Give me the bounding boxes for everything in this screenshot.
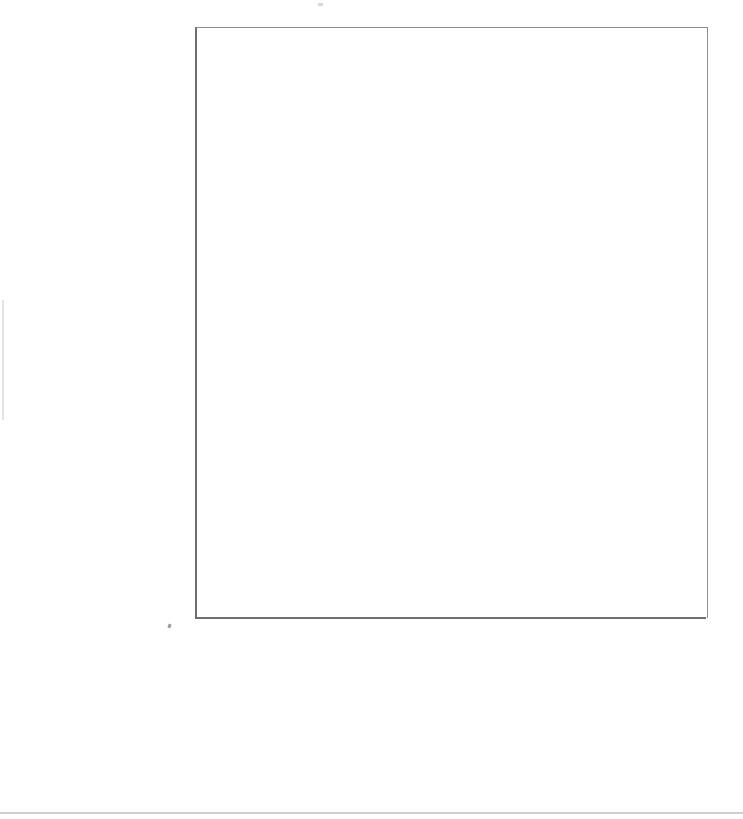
scan-artifact-bottom-edge xyxy=(0,812,743,814)
x-axis-line xyxy=(195,617,706,619)
chart-legend xyxy=(130,718,630,796)
y-axis-ticks xyxy=(0,0,195,819)
bar-chart-figure xyxy=(0,0,743,819)
plot-area xyxy=(195,27,708,618)
scan-artifact-left-edge xyxy=(2,300,4,420)
scan-artifact-speck xyxy=(318,3,323,6)
